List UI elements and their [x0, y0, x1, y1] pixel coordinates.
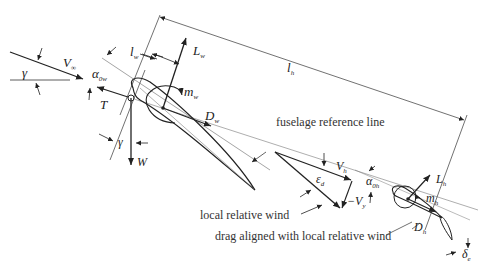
- moment-tail-label: mh: [426, 191, 439, 207]
- aircraft-force-diagram: γ V∞ α0w T γ W lw Lw mw Dw lh fuselage r…: [0, 0, 481, 265]
- alpha-0w-label: α0w: [92, 66, 107, 83]
- epsilon-d-label: εd: [316, 172, 325, 188]
- lift-wing-label: Lw: [192, 43, 205, 60]
- drag-wing-label: Dw: [204, 108, 219, 125]
- alpha-0h-label: α0h: [366, 174, 380, 190]
- l-w-label: lw: [130, 44, 139, 61]
- elevator: [440, 216, 452, 240]
- v-inf-label: V∞: [63, 55, 76, 72]
- v-h-label: Vh: [336, 159, 347, 175]
- local-wind-label: local relative wind: [200, 208, 289, 222]
- thrust-label: T: [100, 97, 108, 112]
- drag-tail-label: Dh: [413, 220, 427, 236]
- neg-v-y-label: −Vy: [347, 194, 366, 210]
- wing-drag-vector: [163, 108, 211, 126]
- gamma-label-bottom: γ: [118, 135, 123, 149]
- wing-lift-vector: [163, 38, 186, 108]
- moment-wing-label: mw: [184, 84, 198, 101]
- weight-label: W: [137, 155, 148, 169]
- wing-zero-lift-line: [102, 58, 270, 170]
- fuselage-reference-label: fuselage reference line: [276, 115, 385, 129]
- delta-e-label: δe: [462, 247, 471, 263]
- drag-aligned-label: drag aligned with local relative wind: [215, 229, 391, 243]
- gamma-label-top: γ: [22, 65, 28, 80]
